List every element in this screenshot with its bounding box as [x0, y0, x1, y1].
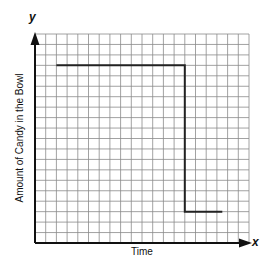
graph-canvas	[0, 0, 272, 273]
y-axis-label: Amount of Candy in the Bowl	[14, 74, 25, 203]
y-axis-name: y	[29, 10, 36, 24]
x-axis-arrow-icon	[239, 239, 252, 248]
x-axis-name: x	[252, 235, 259, 249]
x-axis-label: Time	[131, 246, 153, 257]
